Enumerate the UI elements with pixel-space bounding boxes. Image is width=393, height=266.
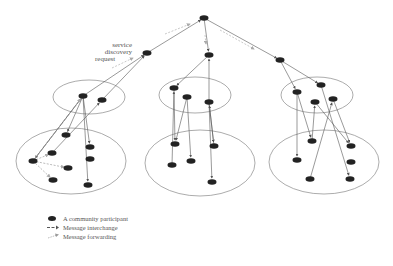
message-interchange-edge	[174, 88, 175, 140]
participant-node-lu1	[79, 93, 88, 99]
participant-node-ru4	[329, 96, 338, 102]
legend-label: Message interchange	[63, 224, 118, 231]
message-interchange-edge	[187, 97, 191, 157]
message-interchange-edge	[297, 92, 311, 137]
participant-node-lu2	[98, 97, 107, 103]
participant-node-rl6	[346, 176, 355, 182]
participant-node-ll1	[62, 132, 71, 138]
message-forwarding-icon	[46, 233, 60, 240]
participant-node-rl3	[293, 157, 302, 163]
participant-node-mu1	[170, 85, 179, 91]
participant-node-root	[200, 15, 209, 21]
community-clusters	[16, 77, 379, 196]
legend-item-forwarding: Message forwarding	[46, 232, 128, 241]
message-interchange-edge	[204, 18, 276, 58]
participant-node-ml2	[168, 162, 177, 168]
participant-node-ru1	[293, 89, 302, 95]
request-marker	[220, 30, 254, 49]
cluster-middle-upper	[159, 77, 231, 113]
message-forwarding-edge	[33, 161, 64, 167]
participant-node-ml5	[208, 179, 217, 185]
message-interchange-edge	[333, 99, 350, 142]
legend-label: A community participant	[63, 215, 128, 222]
message-interchange-icon	[46, 224, 60, 231]
participant-node-ll2	[48, 150, 57, 156]
participant-node-ml1	[171, 141, 180, 147]
participant-node-rl1	[308, 138, 317, 144]
participant-node-mu3	[205, 99, 214, 105]
participant-nodes	[29, 15, 356, 188]
legend: A community participant Message intercha…	[46, 214, 128, 241]
participant-node-ll3	[29, 158, 38, 164]
message-edges	[33, 18, 350, 181]
cluster-middle-lower	[145, 130, 255, 196]
participant-node-ll7	[86, 156, 95, 162]
participant-node-rl5	[306, 176, 315, 182]
message-interchange-edge	[204, 18, 208, 51]
legend-item-interchange: Message interchange	[46, 223, 128, 232]
participant-node-ml4	[210, 143, 219, 149]
participant-node-rl4	[347, 159, 356, 165]
participant-node-ll5	[49, 177, 58, 183]
participant-node-mu2	[183, 94, 192, 100]
service-discovery-request-label: service discovery request	[92, 42, 132, 63]
legend-label: Message forwarding	[63, 233, 116, 240]
message-interchange-edge	[177, 55, 209, 85]
label-line-3: request	[92, 56, 132, 63]
participant-node-l1	[143, 50, 152, 56]
message-interchange-edge	[176, 97, 187, 140]
message-interchange-edge	[315, 102, 348, 143]
participant-node-ll6	[86, 144, 95, 150]
message-forwarding-edge	[33, 161, 50, 177]
message-interchange-edge	[147, 20, 201, 53]
message-interchange-edge	[312, 106, 315, 141]
participant-node-rl2	[347, 143, 356, 149]
participant-node-ru2	[317, 82, 326, 88]
message-interchange-edge	[172, 92, 174, 165]
participant-node-ll4	[64, 165, 73, 171]
participant-node-icon	[46, 215, 60, 222]
cluster-left-upper	[53, 80, 125, 114]
participant-node-ll8	[84, 182, 93, 188]
cluster-right-lower	[269, 130, 379, 194]
message-interchange-edge	[83, 96, 88, 181]
participant-node-m1	[205, 52, 214, 58]
participant-node-r1	[276, 57, 285, 63]
participant-node-ml3	[187, 158, 196, 164]
request-marker	[205, 35, 206, 44]
participant-node-ru3	[311, 99, 320, 105]
legend-item-participant: A community participant	[46, 214, 128, 223]
